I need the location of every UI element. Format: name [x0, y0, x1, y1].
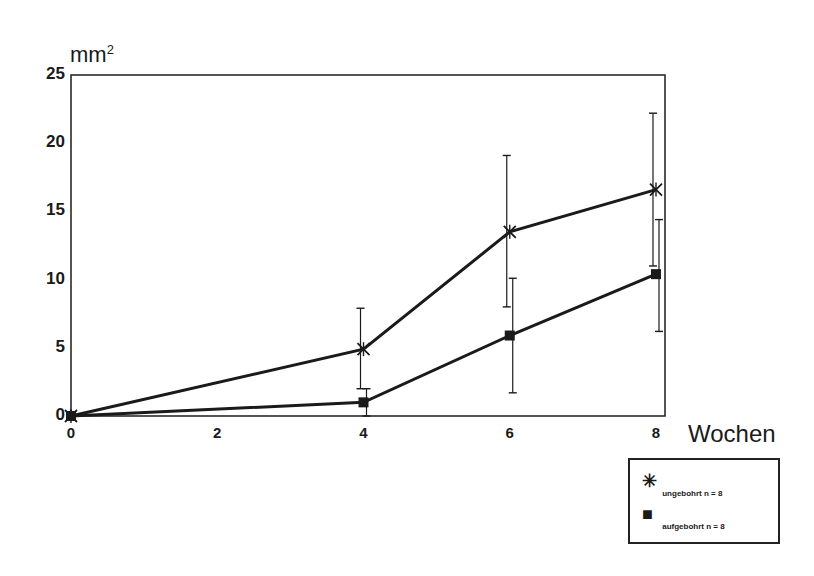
legend-item-aufgebohrt: ■ aufgebohrt n = 8: [642, 504, 725, 525]
legend: ✳ ungebohrt n = 8 ■ aufgebohrt n = 8: [628, 458, 780, 544]
legend-label: ungebohrt n = 8: [662, 489, 722, 498]
plot-frame: [71, 75, 665, 416]
square-marker: [359, 397, 369, 407]
legend-item-ungebohrt: ✳ ungebohrt n = 8: [642, 470, 722, 492]
square-marker-icon: ■: [642, 504, 660, 525]
asterisk-marker-icon: ✳: [642, 470, 660, 492]
square-marker: [651, 269, 661, 279]
series-line-0: [71, 190, 656, 416]
square-marker: [66, 411, 76, 421]
series-layer: [65, 113, 663, 423]
square-marker: [505, 331, 515, 341]
legend-label: aufgebohrt n = 8: [662, 522, 724, 531]
